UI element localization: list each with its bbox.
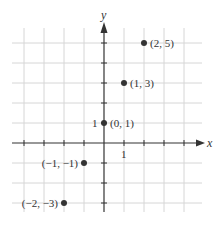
data-point (121, 80, 127, 86)
x-axis-arrow-icon (196, 140, 205, 147)
grid (12, 28, 202, 212)
x-axis-label: x (206, 136, 213, 150)
axes: xy11 (12, 8, 213, 212)
data-point (81, 160, 87, 166)
y-tick-label: 1 (92, 117, 98, 129)
point-label: (0, 1) (110, 117, 134, 130)
point-label: (−2, −3) (22, 197, 59, 210)
coordinate-plane: xy11 (2, 5)(1, 3)(0, 1)(−1, −1)(−2, −3) (0, 0, 218, 234)
y-axis-arrow-icon (101, 22, 108, 33)
data-point (141, 40, 147, 46)
x-tick-label: 1 (121, 148, 127, 160)
y-axis-label: y (100, 8, 107, 22)
data-point (101, 120, 107, 126)
data-point (61, 200, 67, 206)
point-label: (−1, −1) (42, 157, 79, 170)
point-label: (2, 5) (150, 37, 174, 50)
point-label: (1, 3) (130, 77, 154, 90)
